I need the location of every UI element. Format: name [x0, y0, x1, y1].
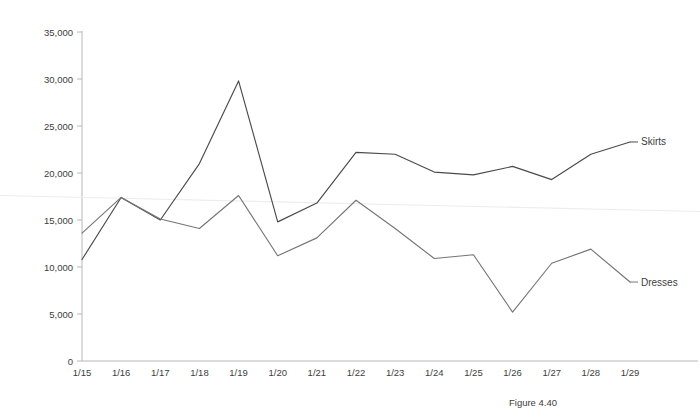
series-line-dresses	[82, 196, 630, 313]
x-tick-label: 1/21	[308, 367, 327, 378]
x-tick-label: 1/29	[621, 367, 640, 378]
x-tick-label: 1/15	[73, 367, 92, 378]
x-tick-label: 1/16	[112, 367, 131, 378]
x-axis-ticks: 1/151/161/171/181/191/201/211/221/231/24…	[73, 367, 640, 378]
trendline	[0, 196, 700, 212]
line-chart: 35,00030,00025,00020,00015,00010,0005,00…	[0, 0, 700, 420]
y-tick-label: 30,000	[44, 74, 73, 85]
series-end-labels: SkirtsDresses	[630, 136, 678, 287]
series-line-skirts	[82, 81, 630, 260]
y-tick-label: 15,000	[44, 215, 73, 226]
x-tick-label: 1/18	[190, 367, 209, 378]
figure-container: 35,00030,00025,00020,00015,00010,0005,00…	[0, 0, 700, 420]
x-tick-label: 1/28	[582, 367, 601, 378]
x-tick-label: 1/22	[347, 367, 366, 378]
y-tick-label: 35,000	[44, 27, 73, 38]
data-series-group	[82, 81, 630, 312]
x-tick-label: 1/24	[425, 367, 444, 378]
x-tick-label: 1/26	[503, 367, 522, 378]
y-tick-label: 25,000	[44, 121, 73, 132]
x-tick-label: 1/25	[464, 367, 483, 378]
series-label-skirts: Skirts	[641, 136, 666, 147]
y-tick-label: 10,000	[44, 262, 73, 273]
x-tick-label: 1/23	[386, 367, 405, 378]
x-tick-label: 1/19	[229, 367, 248, 378]
x-tick-label: 1/27	[542, 367, 561, 378]
y-tick-label: 0	[68, 356, 73, 367]
y-tick-label: 20,000	[44, 168, 73, 179]
x-tick-label: 1/20	[268, 367, 287, 378]
series-label-dresses: Dresses	[641, 277, 678, 288]
y-tick-label: 5,000	[49, 309, 73, 320]
x-tick-label: 1/17	[151, 367, 170, 378]
